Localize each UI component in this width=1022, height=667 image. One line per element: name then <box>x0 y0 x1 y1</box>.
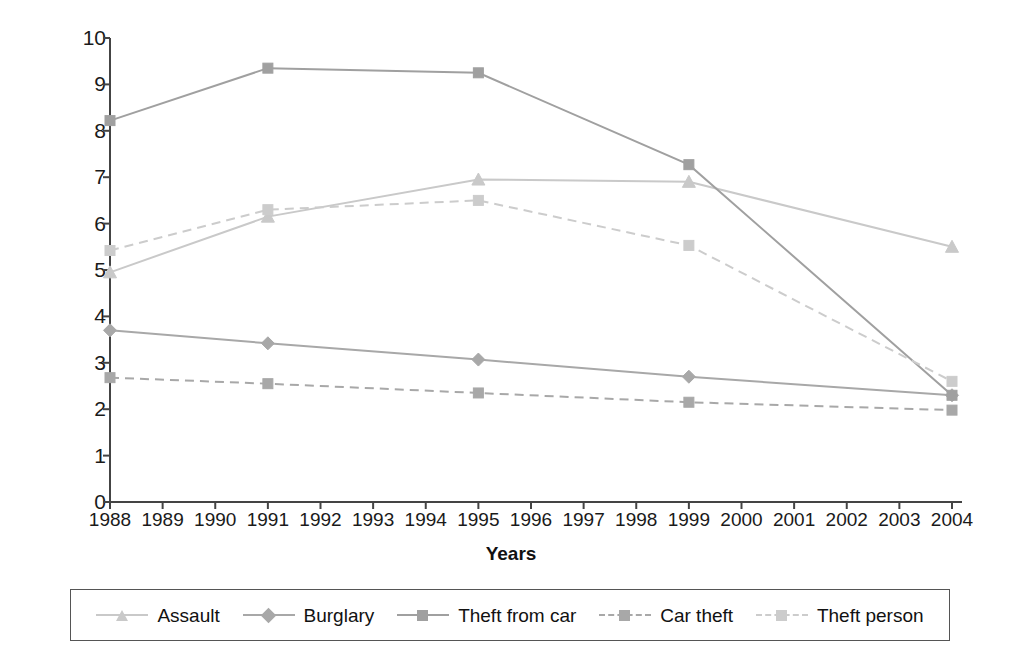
crime-rate-line-chart: Number of Crimes per 100 012345678910 19… <box>0 0 1022 667</box>
x-tick-label: 1989 <box>133 508 193 532</box>
x-tick-label: 2000 <box>712 508 772 532</box>
series-line <box>110 330 952 395</box>
x-axis-title: Years <box>0 543 1022 565</box>
square-marker-icon <box>776 610 787 621</box>
data-point-marker <box>263 63 273 73</box>
legend-label: Assault <box>157 606 219 625</box>
x-tick-label: 1992 <box>291 508 351 532</box>
data-point-marker <box>947 405 957 415</box>
data-point-marker <box>473 388 483 398</box>
x-tick-label: 1990 <box>185 508 245 532</box>
plot-area <box>0 0 1022 667</box>
legend-sample <box>397 607 449 623</box>
x-tick-label: 2002 <box>817 508 877 532</box>
legend-sample <box>756 607 808 623</box>
legend-item-theft-person[interactable]: Theft person <box>756 606 924 625</box>
legend-label: Theft person <box>817 606 924 625</box>
axis-lines <box>110 38 962 502</box>
square-marker-icon <box>619 610 630 621</box>
legend-sample <box>243 607 295 623</box>
series-theft-from-car <box>105 63 957 400</box>
diamond-marker-icon <box>260 608 276 624</box>
data-point-marker <box>684 160 694 170</box>
series-assault <box>104 173 959 278</box>
x-tick-label: 1995 <box>448 508 508 532</box>
data-point-marker <box>947 376 957 386</box>
series-car-theft <box>105 373 957 415</box>
data-point-marker <box>261 337 274 350</box>
series-line <box>110 68 952 395</box>
series-line <box>110 378 952 410</box>
x-tick-label: 1999 <box>659 508 719 532</box>
data-point-marker <box>473 68 483 78</box>
data-point-marker <box>105 116 115 126</box>
series-theft-person <box>105 195 957 386</box>
data-point-marker <box>472 353 485 366</box>
x-tick-label: 2001 <box>764 508 824 532</box>
legend-label: Burglary <box>304 606 375 625</box>
data-point-marker <box>263 205 273 215</box>
legend-sample <box>599 607 651 623</box>
square-marker-icon <box>417 610 428 621</box>
data-point-marker <box>947 390 957 400</box>
x-tick-label: 1994 <box>396 508 456 532</box>
triangle-marker-icon <box>116 610 128 621</box>
legend-item-theft-from-car[interactable]: Theft from car <box>397 606 576 625</box>
legend-label: Car theft <box>660 606 733 625</box>
x-tick-label: 1997 <box>554 508 614 532</box>
legend-item-burglary[interactable]: Burglary <box>243 606 375 625</box>
legend-item-assault[interactable]: Assault <box>96 606 219 625</box>
data-point-marker <box>105 246 115 256</box>
x-tick-label: 1991 <box>238 508 298 532</box>
series-line <box>110 180 952 273</box>
legend-item-car-theft[interactable]: Car theft <box>599 606 733 625</box>
x-tick-label: 1998 <box>606 508 666 532</box>
data-point-marker <box>263 379 273 389</box>
legend-sample <box>96 607 148 623</box>
data-point-marker <box>473 195 483 205</box>
data-point-marker <box>104 266 117 278</box>
x-tick-label: 1996 <box>501 508 561 532</box>
data-point-marker <box>684 240 694 250</box>
legend-label: Theft from car <box>458 606 576 625</box>
x-tick-label: 2003 <box>869 508 929 532</box>
series-burglary <box>104 324 959 402</box>
data-point-marker <box>684 397 694 407</box>
x-tick-label: 2004 <box>922 508 982 532</box>
chart-legend: AssaultBurglaryTheft from carCar theftTh… <box>70 589 950 641</box>
data-point-marker <box>105 373 115 383</box>
x-tick-label: 1988 <box>80 508 140 532</box>
data-point-marker <box>104 324 117 337</box>
x-tick-label: 1993 <box>343 508 403 532</box>
x-axis-tick-labels: 1988198919901991199219931994199519961997… <box>0 508 1022 538</box>
data-point-marker <box>682 370 695 383</box>
